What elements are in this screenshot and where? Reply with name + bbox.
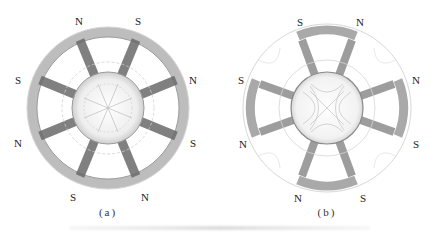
- pole-label-left-lower: N: [14, 138, 22, 149]
- pole-label-right-lower: S: [413, 139, 419, 150]
- panel-a: N S S N N S S N (a): [0, 0, 218, 235]
- pole-label-left-upper: S: [15, 75, 21, 86]
- pole-label-bottom-left: N: [294, 193, 302, 204]
- caption-b: (b): [318, 206, 337, 218]
- pole-label-bottom-right: S: [360, 193, 366, 204]
- blurred-figure-caption: [70, 226, 370, 230]
- pole-label-left-lower: N: [239, 139, 247, 150]
- pole-label-right-lower: S: [190, 138, 196, 149]
- pole-label-top-right: S: [135, 16, 141, 27]
- flux-plot-8-pole: [0, 0, 218, 235]
- pole-label-right-upper: N: [412, 75, 420, 86]
- pole-label-top-right: N: [356, 17, 364, 28]
- pole-label-bottom-right: N: [141, 192, 149, 203]
- pole-label-top-left: N: [75, 16, 83, 27]
- pole-label-left-upper: S: [238, 75, 244, 86]
- panel-b: S N S N N S N S (b): [218, 0, 436, 235]
- pole-label-right-upper: N: [189, 75, 197, 86]
- caption-a: (a): [99, 206, 117, 218]
- flux-plot-6-pole: [218, 0, 436, 235]
- pole-label-top-left: S: [297, 17, 303, 28]
- pole-label-bottom-left: S: [70, 192, 76, 203]
